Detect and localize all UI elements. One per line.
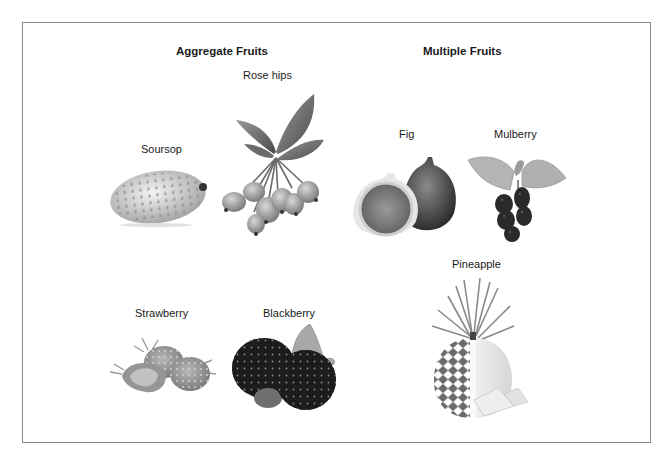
label-blackberry: Blackberry — [263, 307, 315, 319]
heading-multiple-fruits: Multiple Fruits — [423, 45, 502, 57]
label-mulberry: Mulberry — [494, 128, 537, 140]
label-soursop: Soursop — [141, 143, 182, 155]
heading-aggregate-fruits: Aggregate Fruits — [176, 45, 268, 57]
rose-hips-photo — [216, 92, 328, 242]
mulberry-photo — [466, 150, 568, 242]
soursop-photo — [106, 163, 210, 227]
strawberry-photo — [108, 336, 220, 396]
blackberry-photo — [228, 324, 340, 416]
label-pineapple: Pineapple — [452, 258, 501, 270]
fig-photo — [350, 153, 460, 241]
pineapple-photo — [418, 276, 530, 422]
label-strawberry: Strawberry — [135, 307, 188, 319]
label-rose-hips: Rose hips — [243, 69, 292, 81]
label-fig: Fig — [399, 128, 414, 140]
